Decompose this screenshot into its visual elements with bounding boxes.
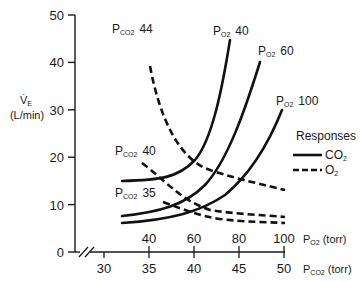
legend: Responses CO2 O2 <box>293 129 356 177</box>
label-po2-40: PO240 <box>213 24 249 38</box>
x-axis-label-po2: PO2(torr) <box>303 233 347 246</box>
svg-text:(L/min): (L/min) <box>10 109 44 121</box>
o2-response-curves <box>142 66 285 223</box>
y-tick-0: 0 <box>57 245 64 260</box>
label-po2-100: PO2100 <box>276 94 319 108</box>
y-ticks <box>68 15 75 205</box>
ventilatory-response-chart: 50 40 30 20 10 0 V̇E (L/min) 40 60 80 10… <box>0 0 362 282</box>
y-tick-40: 40 <box>50 55 64 70</box>
svg-text:50: 50 <box>277 261 291 276</box>
y-tick-20: 20 <box>50 150 64 165</box>
curve-pco2-44 <box>150 66 285 190</box>
y-axis-label: V̇E (L/min) <box>10 94 44 121</box>
svg-text:V̇E: V̇E <box>20 94 32 107</box>
svg-text:40: 40 <box>142 231 156 246</box>
x-axis-label-pco2: PCO2(torr) <box>303 263 352 276</box>
legend-o2-label: O2 <box>325 163 338 177</box>
y-tick-50: 50 <box>50 8 64 23</box>
svg-text:35: 35 <box>142 261 156 276</box>
label-pco2-40: PCO240 <box>115 144 156 158</box>
y-tick-labels: 50 40 30 20 10 0 <box>50 8 64 260</box>
svg-text:30: 30 <box>97 261 111 276</box>
label-pco2-44: PCO244 <box>112 22 153 36</box>
x-tick-labels-po2: 40 60 80 100 <box>142 231 295 246</box>
curve-pco2-35 <box>163 202 285 223</box>
svg-text:40: 40 <box>187 261 201 276</box>
legend-title: Responses <box>296 129 356 143</box>
svg-text:60: 60 <box>187 231 201 246</box>
svg-text:100: 100 <box>273 231 295 246</box>
legend-co2-label: CO2 <box>325 148 347 162</box>
svg-text:80: 80 <box>232 231 246 246</box>
curve-po2-40 <box>122 40 230 181</box>
y-tick-10: 10 <box>50 198 64 213</box>
svg-text:45: 45 <box>232 261 246 276</box>
x-tick-labels-pco2: 30 35 40 45 50 <box>97 261 291 276</box>
label-pco2-35: PCO235 <box>115 186 156 200</box>
y-tick-30: 30 <box>50 103 64 118</box>
label-po2-60: PO260 <box>258 44 294 58</box>
